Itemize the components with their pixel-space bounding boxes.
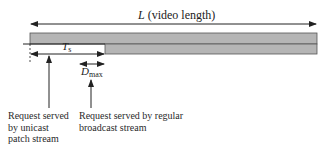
dmax-sub: max <box>89 70 103 79</box>
annotation-line: Request served by regular <box>79 110 183 122</box>
annotation-line: Request served <box>8 110 69 122</box>
dmax-symbol: D <box>81 65 89 77</box>
video-length-label: L (video length) <box>138 8 215 23</box>
length-text: (video length) <box>148 8 216 22</box>
lower-stream-bar <box>105 44 317 54</box>
unicast-annotation: Request served by unicast patch stream <box>8 110 69 145</box>
ts-sub: s <box>68 45 71 54</box>
ts-label: Ts <box>62 40 71 54</box>
annotation-line: patch stream <box>8 133 69 145</box>
length-symbol: L <box>138 8 145 22</box>
dmax-label: Dmax <box>81 65 103 79</box>
annotation-line: by unicast <box>8 122 69 134</box>
broadcast-annotation: Request served by regular broadcast stre… <box>79 110 183 133</box>
annotation-line: broadcast stream <box>79 122 183 134</box>
upper-stream-bar <box>30 33 317 44</box>
